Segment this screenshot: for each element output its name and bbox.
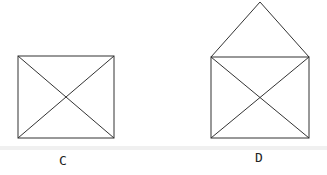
figure-c bbox=[18, 56, 114, 138]
figure-d-roof bbox=[211, 2, 309, 57]
figure-d bbox=[211, 2, 309, 138]
figure-c-label: C bbox=[59, 153, 67, 168]
figure-d-label: D bbox=[255, 150, 263, 165]
diagram-canvas: C D bbox=[0, 0, 327, 175]
faint-scan-band bbox=[0, 146, 327, 150]
